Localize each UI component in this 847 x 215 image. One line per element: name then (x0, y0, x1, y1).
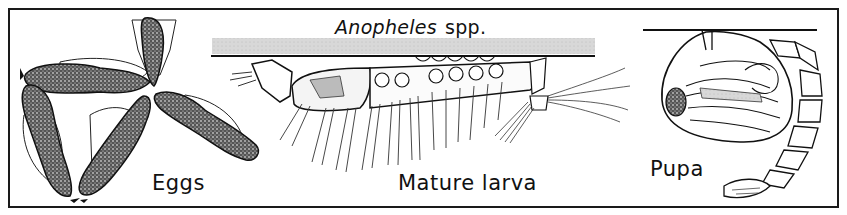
label-eggs: Eggs (152, 171, 205, 195)
water-surface-band (212, 38, 595, 54)
figure-title: Anophelesspp. (335, 16, 486, 38)
label-pupa: Pupa (650, 157, 704, 181)
title-genus: Anopheles (335, 16, 437, 38)
egg-right (154, 92, 258, 160)
label-mature-larva: Mature larva (398, 171, 537, 195)
title-suffix: spp. (445, 16, 486, 38)
egg-lower-left (22, 85, 71, 196)
egg-lower-middle (70, 96, 150, 203)
larva-illustration (211, 38, 630, 172)
